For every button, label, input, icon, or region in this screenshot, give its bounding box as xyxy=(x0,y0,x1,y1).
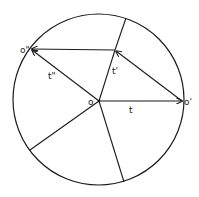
label-t: t xyxy=(129,105,133,115)
label-o-prime: o' xyxy=(184,97,192,107)
circle-boundary xyxy=(13,14,184,185)
radial-line-upper xyxy=(115,18,126,50)
vector-p-to-o-double-prime xyxy=(32,49,115,50)
radial-line-lower xyxy=(99,101,124,182)
label-t-prime: t' xyxy=(112,66,118,76)
center-point-o xyxy=(98,100,101,103)
radial-line-lower-left xyxy=(30,101,99,150)
label-o: o xyxy=(88,97,94,107)
rotation-diagram: o o' o" t t' t" xyxy=(0,0,199,197)
vector-o-prime-to-p xyxy=(116,51,182,101)
label-t-double-prime: t" xyxy=(48,71,56,81)
label-o-double-prime: o" xyxy=(20,45,30,55)
vector-t-double-prime xyxy=(32,50,99,101)
